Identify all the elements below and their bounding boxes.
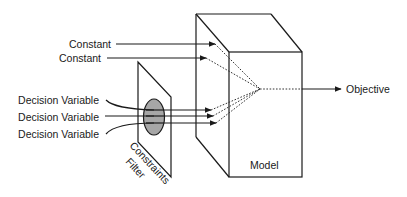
decision-variable-label: Decision Variable [18,111,99,123]
model-label: Model [250,159,279,171]
constant-label: Constant [69,38,111,50]
objective-output: Objective [260,83,390,95]
decision-variable-1: Decision Variable [18,89,260,110]
objective-label: Objective [346,83,390,95]
decision-variable-label: Decision Variable [18,128,99,140]
filter-ellipse [144,99,165,135]
constant-label: Constant [59,52,101,64]
decision-variable-label: Decision Variable [18,94,99,106]
model-box [196,14,302,177]
optimization-model-diagram: Constant Constant Constraints Filter Dec… [0,0,407,197]
constant-input-2: Constant [59,52,260,89]
